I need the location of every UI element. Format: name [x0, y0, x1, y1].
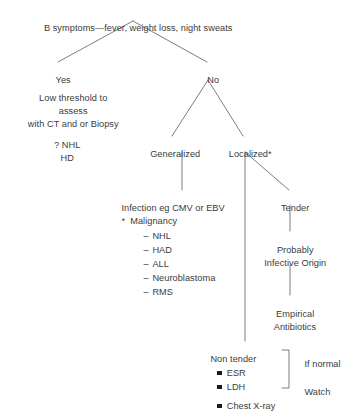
node-tender-label: Tender: [281, 203, 309, 213]
node-localized-label: Localized*: [229, 149, 272, 159]
bracket-tests-outcome: [282, 350, 289, 388]
node-probably-infective-line2: Infective Origin: [254, 245, 327, 282]
hd-text: HD: [61, 153, 74, 163]
watch-label: Watch: [304, 387, 330, 397]
node-root: B symptoms—fever, weight loss, night swe…: [34, 10, 233, 47]
node-no: No: [197, 62, 219, 99]
square-bullet-icon: [217, 404, 222, 409]
malignancy-item: –RMS: [133, 274, 173, 311]
test-item-label: Chest X-ray: [227, 401, 276, 411]
test-item: Chest X-ray: [207, 388, 275, 415]
probably-text-2: Infective Origin: [264, 258, 326, 268]
node-tender: Tender: [271, 190, 310, 227]
node-no-label: No: [207, 75, 219, 85]
malignancy-item-label: RMS: [152, 287, 173, 297]
node-localized: Localized*: [218, 136, 271, 173]
empirical-text-2: Antibiotics: [274, 322, 316, 332]
node-generalized-label: Generalized: [150, 149, 200, 159]
node-watch: Watch: [294, 374, 330, 411]
if-normal-label: If normal: [304, 359, 340, 369]
node-root-label: B symptoms—fever, weight loss, night swe…: [44, 23, 233, 33]
node-generalized: Generalized: [140, 136, 201, 173]
node-hd: HD: [50, 140, 74, 177]
node-empirical-antibiotics-line2: Antibiotics: [264, 309, 316, 346]
